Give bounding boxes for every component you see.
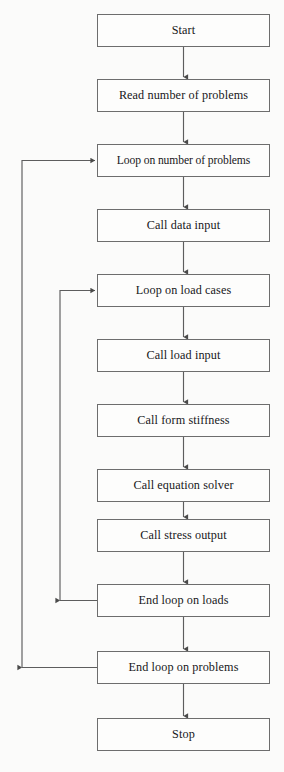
node-loop-on-load-cases[interactable]: Loop on load cases [97, 274, 270, 307]
node-call-data-input[interactable]: Call data input [97, 209, 270, 242]
node-start-label: Start [172, 24, 196, 36]
node-start[interactable]: Start [97, 14, 270, 47]
node-end-loop-on-problems[interactable]: End loop on problems [97, 651, 270, 684]
node-call-equation-solver[interactable]: Call equation solver [97, 469, 270, 502]
node-loop-on-number-of-problems[interactable]: Loop on number of problems [97, 144, 270, 177]
node-end-loop-on-loads-label: End loop on loads [138, 594, 228, 606]
node-end-loop-on-problems-label: End loop on problems [129, 661, 239, 673]
node-read-number-of-problems-label: Read number of problems [119, 89, 248, 101]
connector-outer-loop-feedback-rail [22, 161, 95, 668]
flowchart-canvas: Start Read number of problems Loop on nu… [0, 0, 284, 772]
connector-inner-loop-feedback-rail [60, 291, 95, 601]
node-call-stress-output[interactable]: Call stress output [97, 519, 270, 552]
node-call-form-stiffness-label: Call form stiffness [137, 414, 229, 426]
node-stop-label: Stop [172, 728, 195, 740]
node-call-load-input[interactable]: Call load input [97, 339, 270, 372]
node-call-equation-solver-label: Call equation solver [133, 479, 233, 491]
node-stop[interactable]: Stop [97, 718, 270, 751]
node-read-number-of-problems[interactable]: Read number of problems [97, 79, 270, 112]
node-call-data-input-label: Call data input [147, 219, 220, 231]
node-loop-on-number-of-problems-label: Loop on number of problems [117, 154, 250, 166]
node-loop-on-load-cases-label: Loop on load cases [136, 284, 232, 296]
node-call-form-stiffness[interactable]: Call form stiffness [97, 404, 270, 437]
node-end-loop-on-loads[interactable]: End loop on loads [97, 584, 270, 617]
node-call-load-input-label: Call load input [147, 349, 221, 361]
node-call-stress-output-label: Call stress output [140, 529, 226, 541]
